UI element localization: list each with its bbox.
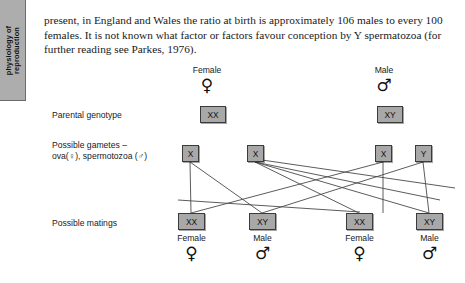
gamete-box-2: X bbox=[247, 145, 264, 162]
mating-female-symbol-icon-3: ♀ bbox=[337, 245, 382, 262]
gamete-box-1: X bbox=[182, 145, 199, 162]
mating-male-symbol-icon-4: ♂ bbox=[407, 245, 452, 262]
inheritance-diagram: Parental genotype Possible gametes – ova… bbox=[0, 60, 465, 283]
body-paragraph: present, in England and Wales the ratio … bbox=[44, 13, 454, 56]
parent-genotype-box-female: XX bbox=[200, 106, 226, 123]
mating-box-3: XX bbox=[346, 213, 373, 230]
female-symbol-icon: ♀ bbox=[185, 77, 229, 94]
mating-caption-1: Female bbox=[169, 233, 214, 243]
parent-genotype-box-male: XY bbox=[377, 106, 403, 123]
parent-caption-male: Male bbox=[362, 65, 406, 75]
male-symbol-icon: ♂ bbox=[362, 77, 406, 94]
gamete-box-4: Y bbox=[415, 145, 432, 162]
mating-box-1: XX bbox=[178, 213, 205, 230]
mating-female-symbol-icon-1: ♀ bbox=[169, 245, 214, 262]
mating-caption-4: Male bbox=[407, 233, 452, 243]
parent-caption-female: Female bbox=[185, 65, 229, 75]
mating-male-symbol-icon-2: ♂ bbox=[240, 245, 285, 262]
gamete-box-3: X bbox=[375, 145, 392, 162]
mating-caption-2: Male bbox=[240, 233, 285, 243]
row-label-parental-genotype: Parental genotype bbox=[52, 110, 122, 121]
mating-caption-3: Female bbox=[337, 233, 382, 243]
row-label-possible-matings: Possible matings bbox=[52, 218, 117, 229]
mating-box-2: XY bbox=[249, 213, 276, 230]
row-label-possible-gametes: Possible gametes – ova(♀), spermotozoa (… bbox=[52, 140, 147, 161]
mating-box-4: XY bbox=[416, 213, 443, 230]
